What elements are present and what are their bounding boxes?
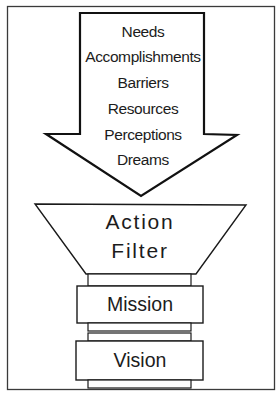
connector-top: [88, 274, 191, 286]
diagram: Needs Accomplishments Barriers Resources…: [0, 0, 280, 399]
arrow-item-accomplishments: Accomplishments: [80, 49, 206, 65]
filter-label-line2: Filter: [60, 240, 220, 261]
connector-middle-upper: [88, 323, 191, 331]
connector-middle-lower: [88, 333, 191, 341]
filter-label-line1: Action: [60, 211, 220, 232]
arrow-item-barriers: Barriers: [80, 75, 206, 91]
arrow-item-perceptions: Perceptions: [80, 127, 206, 143]
arrow-item-needs: Needs: [80, 24, 206, 40]
vision-label: Vision: [77, 351, 203, 371]
arrow-item-resources: Resources: [80, 101, 206, 117]
connector-bottom: [88, 380, 191, 388]
mission-label: Mission: [77, 295, 203, 315]
arrow-item-dreams: Dreams: [80, 152, 206, 168]
